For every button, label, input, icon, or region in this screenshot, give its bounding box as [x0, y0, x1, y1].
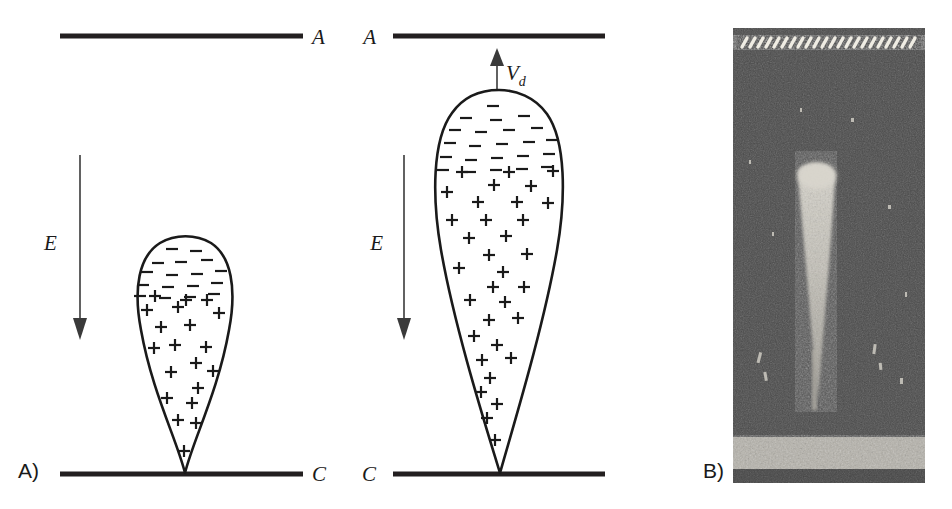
figure-canvas: A C E A C E [0, 0, 952, 509]
panel-b-velocity-subscript: d [519, 74, 527, 89]
panel-b-field-arrow-head [397, 318, 411, 340]
panel-b-cathode-label: C [362, 462, 377, 486]
panel-b-velocity-label: Vd [506, 61, 527, 89]
panel-a-field-label: E [43, 231, 57, 255]
photo-jet-tail [812, 350, 817, 410]
photo-grid-band [737, 36, 921, 49]
photo-bottom-shadow-texture [733, 469, 925, 483]
panel-b-jet-outline [435, 90, 563, 473]
photo-jet-head [798, 163, 836, 189]
panel-b-field-arrow: E [369, 155, 411, 340]
panel-a-anode-label: A [310, 25, 325, 49]
panel-a-field-arrow-head [73, 318, 87, 340]
panel-a-tag: A) [18, 459, 39, 482]
panel-b-schematic: A C E Vd [361, 25, 605, 486]
panel-b-velocity-arrow-head [490, 48, 504, 66]
panel-a-field-arrow: E [43, 155, 87, 340]
photo-bottom-texture [733, 437, 925, 469]
panel-a-cathode-label: C [312, 462, 327, 486]
panel-b-velocity-arrow: Vd [490, 48, 527, 92]
figure-root: A C E A C E [0, 0, 952, 509]
photo-bottom-band [733, 437, 925, 483]
panel-b-photo [733, 28, 925, 483]
panel-b-field-label: E [369, 231, 383, 255]
panel-b-anode-label: A [361, 25, 376, 49]
panel-b-tag: B) [703, 459, 724, 482]
panel-a: A C E [43, 25, 327, 486]
